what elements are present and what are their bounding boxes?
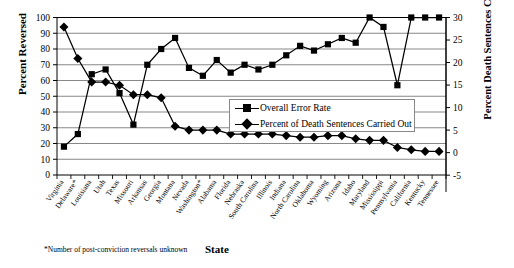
svg-text:60: 60 xyxy=(41,76,51,86)
svg-text:10: 10 xyxy=(453,103,463,113)
svg-text:40: 40 xyxy=(41,107,51,117)
y-axis-left-title: Percent Reversed xyxy=(16,0,28,119)
chart-container: Percent Reversed Percent Death Sentences… xyxy=(0,0,514,268)
legend-item-overall-error-rate: Overall Error Rate xyxy=(230,100,414,116)
svg-text:0: 0 xyxy=(45,170,50,180)
svg-text:10: 10 xyxy=(41,155,51,165)
svg-text:15: 15 xyxy=(453,80,463,90)
svg-text:0: 0 xyxy=(453,148,458,158)
svg-text:70: 70 xyxy=(41,60,51,70)
x-axis-category-labels: VirginiaDelaware*LouisianaUtahTexasMisso… xyxy=(44,177,441,220)
legend-label-1: Percent of Death Sentences Carried Out xyxy=(260,119,412,129)
y-axis-left-ticks: 1009080706050403020100 xyxy=(36,13,57,181)
legend-label-0: Overall Error Rate xyxy=(260,103,331,113)
svg-text:25: 25 xyxy=(453,35,463,45)
svg-text:50: 50 xyxy=(41,92,51,102)
chart-plot-area: 1009080706050403020100 302520151050-5 Vi… xyxy=(0,0,514,268)
square-marker-icon xyxy=(234,101,260,115)
svg-text:-5: -5 xyxy=(453,171,461,181)
svg-text:5: 5 xyxy=(453,126,458,136)
chart-legend: Overall Error Rate Percent of Death Sent… xyxy=(229,99,415,132)
data-series-layer xyxy=(59,14,443,156)
svg-text:20: 20 xyxy=(453,58,463,68)
x-axis-title: State xyxy=(205,243,229,255)
svg-text:100: 100 xyxy=(36,13,51,23)
y-axis-right-title: Percent Death Sentences Carried Out xyxy=(482,0,493,131)
svg-text:80: 80 xyxy=(41,44,51,54)
y-axis-right-ticks: 302520151050-5 xyxy=(446,13,463,192)
svg-text:30: 30 xyxy=(453,13,463,23)
diamond-marker-icon xyxy=(234,117,260,131)
legend-item-death-sentences-carried-out: Percent of Death Sentences Carried Out xyxy=(230,116,414,132)
gridlines xyxy=(57,18,446,176)
chart-footnote: *Number of post-conviction reversals unk… xyxy=(44,245,187,254)
svg-text:30: 30 xyxy=(41,123,51,133)
svg-text:90: 90 xyxy=(41,29,51,39)
svg-text:20: 20 xyxy=(41,139,51,149)
